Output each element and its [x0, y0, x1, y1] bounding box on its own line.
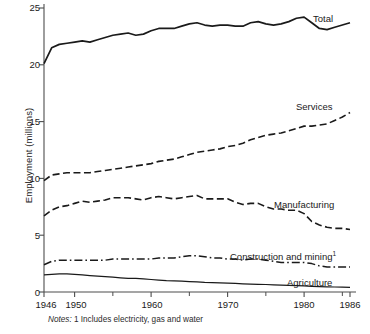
y-tick-label-15: 15	[14, 117, 40, 127]
x-tick-label-1970: 1970	[212, 300, 244, 310]
series-path-services	[44, 113, 350, 181]
series-label-agriculture: Agriculture	[287, 278, 332, 288]
footnote-text: 1 Includes electricity, gas and water	[74, 315, 203, 324]
y-tick-label-25: 25	[14, 3, 40, 13]
x-tick-label-1950: 1950	[60, 300, 92, 310]
employment-line-chart: Employment (millions) 25 20 15 10 5 0 19…	[0, 0, 370, 334]
chart-footnote: Notes: 1 Includes electricity, gas and w…	[48, 315, 203, 324]
series-label-services: Services	[296, 102, 332, 112]
series-path-total	[44, 17, 350, 64]
construction-label-text: Construction and mining	[230, 251, 332, 262]
x-tick-label-1960: 1960	[136, 300, 168, 310]
footnote-prefix: Notes:	[48, 315, 72, 324]
y-tick-label-10: 10	[14, 174, 40, 184]
y-axis-title: Employment (millions)	[23, 76, 34, 236]
series-label-manufacturing: Manufacturing	[274, 200, 334, 210]
series-label-total: Total	[313, 14, 333, 24]
y-tick-label-20: 20	[14, 60, 40, 70]
series-label-construction: Construction and mining1	[230, 252, 336, 262]
construction-footnote-marker: 1	[332, 250, 336, 257]
y-tick-label-5: 5	[14, 231, 40, 241]
y-tick-label-0: 0	[14, 288, 40, 298]
x-tick-label-1980: 1980	[288, 300, 320, 310]
page-bleed-artifact	[10, 328, 14, 334]
x-tick-label-1946: 1946	[30, 300, 62, 310]
x-tick-label-1986: 1986	[334, 300, 366, 310]
